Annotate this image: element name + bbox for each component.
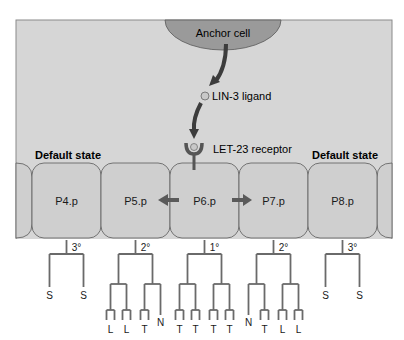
anchor-cell-label: Anchor cell — [196, 27, 250, 39]
ligand-label: LIN-3 ligand — [212, 90, 271, 102]
cell-label-p5: P5.p — [124, 195, 147, 207]
cell-label-p6: P6.p — [193, 195, 216, 207]
fate-label-p6: 1° — [210, 242, 220, 253]
cell-label-p4: P4.p — [55, 195, 78, 207]
partial-cell-left — [16, 163, 32, 238]
partial-cell-right — [377, 163, 392, 238]
bound-ligand-icon — [191, 144, 198, 151]
fate-label-p5: 2° — [141, 242, 151, 253]
leaf-label-p7: L — [296, 324, 302, 335]
leaf-label-p5: L — [124, 324, 130, 335]
vulval-induction-diagram: P4.pP5.pP6.pP7.pP8.p 3°SS2°LLTN1°TTTT2°N… — [0, 0, 404, 340]
leaf-label-p4: S — [46, 290, 53, 301]
default-state-right-label: Default state — [312, 149, 378, 161]
fate-label-p4: 3° — [72, 242, 82, 253]
lateral-signal-right-shaft — [232, 198, 244, 202]
leaf-label-p5: T — [141, 324, 147, 335]
leaf-label-p8: S — [356, 290, 363, 301]
default-state-left-label: Default state — [35, 149, 101, 161]
leaf-label-p6: T — [226, 324, 232, 335]
cell-label-p7: P7.p — [262, 195, 285, 207]
leaf-label-p8: S — [322, 290, 329, 301]
leaf-label-p5: N — [157, 317, 164, 328]
fate-label-p7: 2° — [279, 242, 289, 253]
leaf-label-p7: L — [280, 324, 286, 335]
ligand-icon — [201, 92, 209, 100]
lateral-signal-left-shaft — [167, 198, 179, 202]
leaf-label-p6: T — [176, 324, 182, 335]
receptor-label: LET-23 receptor — [213, 143, 292, 155]
leaf-label-p4: S — [80, 290, 87, 301]
leaf-label-p7: T — [261, 324, 267, 335]
leaf-label-p7: N — [245, 317, 252, 328]
cell-label-p8: P8.p — [331, 195, 354, 207]
leaf-label-p6: T — [192, 324, 198, 335]
leaf-label-p5: L — [108, 324, 114, 335]
fate-label-p8: 3° — [348, 242, 358, 253]
leaf-label-p6: T — [210, 324, 216, 335]
